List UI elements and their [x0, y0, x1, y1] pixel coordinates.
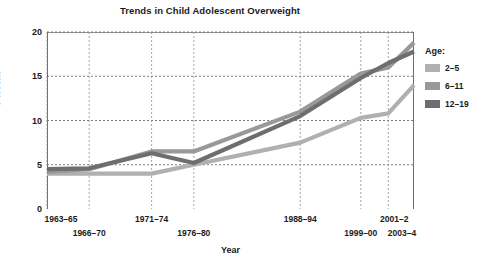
- legend-item-label: 6–11: [445, 81, 463, 91]
- y-tick-label: 5: [2, 160, 42, 170]
- series-line-2: [47, 51, 414, 169]
- series-line-0: [47, 85, 414, 174]
- legend-item: 2–5: [425, 63, 487, 73]
- legend-entries: 2–56–1112–19: [425, 63, 487, 109]
- x-tick-label: 1976–80: [177, 228, 210, 238]
- x-tick-label: 1966–70: [73, 228, 106, 238]
- plot-area: [47, 32, 414, 209]
- y-tick-label: 0: [2, 204, 42, 214]
- x-tick-label: 1999–00: [344, 228, 377, 238]
- x-tick-label: 1971–74: [135, 214, 168, 224]
- x-axis-label: Year: [47, 245, 414, 255]
- legend-item-label: 2–5: [445, 63, 459, 73]
- legend-item: 12–19: [425, 99, 487, 109]
- x-tick-label: 1988–94: [284, 214, 317, 224]
- x-tick-label: 1963–65: [44, 214, 77, 224]
- legend-item: 6–11: [425, 81, 487, 91]
- y-tick-label: 15: [2, 71, 42, 81]
- y-axis-label: Percent: [0, 72, 2, 105]
- legend: Age: 2–56–1112–19: [425, 46, 487, 117]
- legend-swatch-icon: [425, 100, 440, 108]
- legend-swatch-icon: [425, 64, 440, 72]
- x-tick-label: 2001–2: [380, 214, 408, 224]
- legend-swatch-icon: [425, 82, 440, 90]
- y-tick-label: 10: [2, 116, 42, 126]
- data-series-layer: [47, 32, 414, 209]
- chart-figure: Trends in Child Adolescent Overweight 05…: [0, 0, 487, 270]
- legend-title: Age:: [425, 46, 487, 56]
- series-line-1: [47, 43, 414, 172]
- y-tick-label: 20: [2, 27, 42, 37]
- chart-title: Trends in Child Adolescent Overweight: [0, 5, 420, 16]
- legend-item-label: 12–19: [445, 99, 469, 109]
- x-tick-label: 2003–4: [388, 228, 416, 238]
